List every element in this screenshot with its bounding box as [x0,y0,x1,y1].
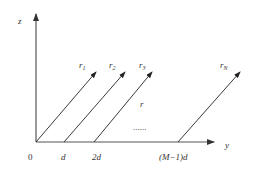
array-geometry-diagram: z y r1 r2 r3 rN r ...... 0 d 2d (M−1)d [0,0,255,172]
ray-label-r1: r1 [79,60,86,71]
ray-r1 [36,72,96,142]
ray-label-r3: r3 [139,60,146,71]
ray-r2 [64,72,125,142]
ray-label-rN: rN [220,60,229,71]
tick-label-2d: 2d [92,152,102,162]
y-axis-label: y [224,140,229,150]
tick-label-m-minus-1-d: (M−1)d [159,152,188,162]
ray-label-r: r [140,99,144,109]
tick-label-d: d [61,152,66,162]
z-axis-label: z [17,16,22,26]
ray-rN [178,72,240,142]
ellipsis: ...... [133,122,147,132]
ray-label-r2: r2 [109,60,116,71]
tick-label-0: 0 [28,152,33,162]
